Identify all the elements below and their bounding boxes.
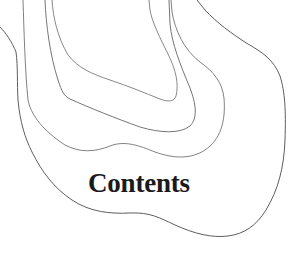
- contour-line-inner: [52, 0, 177, 101]
- topographic-contour-illustration: [0, 0, 304, 257]
- page-title: Contents: [88, 168, 190, 198]
- contour-line-outer: [0, 0, 285, 237]
- contour-line-third: [23, 0, 224, 157]
- contents-page: Contents: [0, 0, 304, 257]
